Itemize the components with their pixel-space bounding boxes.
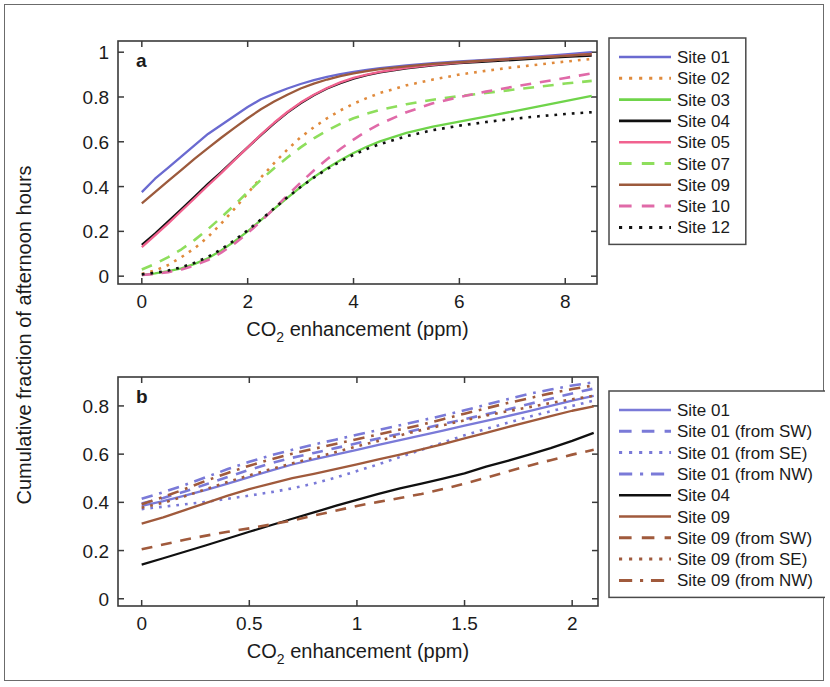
y-tick-label-a-0: 0 bbox=[98, 266, 109, 287]
x-tick-label-b-1: 0.5 bbox=[236, 613, 262, 634]
legend-panel-b-label-7: Site 09 (from SE) bbox=[677, 550, 807, 569]
y-tick-label-b-1: 0.2 bbox=[83, 541, 109, 562]
y-tick-label-b-3: 0.6 bbox=[83, 444, 109, 465]
x-axis-title-post-b: enhancement (ppm) bbox=[285, 640, 470, 662]
legend-panel-b-label-5: Site 09 bbox=[677, 508, 730, 527]
legend-panel-b-label-2: Site 01 (from SE) bbox=[677, 444, 807, 463]
legend-panel-a-label-6: Site 09 bbox=[677, 176, 730, 195]
x-tick-label-a-4: 8 bbox=[560, 291, 571, 312]
curve-a-site-02 bbox=[142, 59, 592, 274]
x-axis-title-pre-b: CO bbox=[247, 640, 277, 662]
curve-b-site-09 bbox=[142, 406, 594, 523]
curve-b-site-04 bbox=[142, 433, 594, 565]
curve-b-site-01-from-sw bbox=[142, 389, 594, 504]
legend-panel-a: Site 01Site 02Site 03Site 04Site 05Site … bbox=[609, 38, 746, 244]
legend-panel-a-label-0: Site 01 bbox=[677, 48, 730, 67]
y-tick-label-a-4: 0.8 bbox=[83, 87, 109, 108]
curve-b-site-01 bbox=[142, 396, 594, 506]
legend-panel-a-label-7: Site 10 bbox=[677, 197, 730, 216]
legend-panel-b-label-6: Site 09 (from SW) bbox=[677, 529, 812, 548]
legend-panel-b-label-8: Site 09 (from NW) bbox=[677, 571, 813, 590]
legend-panel-a-label-8: Site 12 bbox=[677, 218, 730, 237]
y-tick-label-a-1: 0.2 bbox=[83, 221, 109, 242]
x-tick-label-a-0: 0 bbox=[137, 291, 148, 312]
x-tick-label-b-3: 1.5 bbox=[451, 613, 477, 634]
panel-b: 00.511.5200.20.40.60.8bCO2 enhancement (… bbox=[83, 377, 598, 667]
y-tick-label-b-2: 0.4 bbox=[83, 492, 110, 513]
legend-panel-b: Site 01Site 01 (from SW)Site 01 (from SE… bbox=[609, 391, 825, 597]
curve-a-site-10 bbox=[142, 73, 592, 275]
y-tick-label-b-0: 0 bbox=[98, 589, 109, 610]
legend-panel-a-label-1: Site 02 bbox=[677, 69, 730, 88]
figure-frame: Cumulative fraction of afternoon hours02… bbox=[4, 4, 824, 681]
x-tick-label-b-4: 2 bbox=[567, 613, 578, 634]
x-axis-title-sub-a: 2 bbox=[276, 329, 284, 345]
y-tick-label-a-3: 0.6 bbox=[83, 132, 109, 153]
x-axis-title-b: CO2 enhancement (ppm) bbox=[247, 640, 469, 667]
legend-panel-a-label-2: Site 03 bbox=[677, 91, 730, 110]
y-tick-label-b-4: 0.8 bbox=[83, 396, 109, 417]
legend-panel-b-label-3: Site 01 (from NW) bbox=[677, 465, 813, 484]
legend-panel-a-label-5: Site 07 bbox=[677, 155, 730, 174]
y-tick-label-a-2: 0.4 bbox=[83, 177, 110, 198]
panel-letter-a: a bbox=[136, 50, 147, 71]
y-tick-label-a-5: 1 bbox=[98, 42, 109, 63]
x-tick-label-b-0: 0 bbox=[136, 613, 147, 634]
legend-panel-b-label-4: Site 04 bbox=[677, 486, 730, 505]
x-tick-label-a-3: 6 bbox=[454, 291, 465, 312]
curve-a-site-01 bbox=[142, 52, 592, 192]
x-tick-label-a-2: 4 bbox=[348, 291, 359, 312]
x-axis-title-post-a: enhancement (ppm) bbox=[284, 318, 469, 340]
x-axis-title-sub-b: 2 bbox=[277, 651, 285, 667]
legend-panel-a-label-3: Site 04 bbox=[677, 112, 730, 131]
panel-letter-b: b bbox=[136, 386, 148, 407]
cumulative-fraction-figure: Cumulative fraction of afternoon hours02… bbox=[5, 5, 825, 682]
curve-a-site-09 bbox=[142, 54, 592, 203]
curve-b-site-09-from-sw bbox=[142, 450, 594, 550]
x-tick-label-a-1: 2 bbox=[242, 291, 253, 312]
x-axis-title-pre-a: CO bbox=[246, 318, 276, 340]
legend-panel-b-label-0: Site 01 bbox=[677, 401, 730, 420]
x-axis-title-a: CO2 enhancement (ppm) bbox=[246, 318, 468, 345]
curve-a-site-12 bbox=[142, 112, 592, 274]
legend-panel-a-label-4: Site 05 bbox=[677, 133, 730, 152]
y-axis-title: Cumulative fraction of afternoon hours bbox=[13, 165, 35, 504]
curve-b-site-09-from-nw bbox=[142, 385, 594, 504]
legend-panel-b-label-1: Site 01 (from SW) bbox=[677, 422, 812, 441]
x-tick-label-b-2: 1 bbox=[352, 613, 363, 634]
curve-a-site-05 bbox=[142, 54, 592, 247]
panel-a: 0246800.20.40.60.81aCO2 enhancement (ppm… bbox=[83, 41, 597, 345]
